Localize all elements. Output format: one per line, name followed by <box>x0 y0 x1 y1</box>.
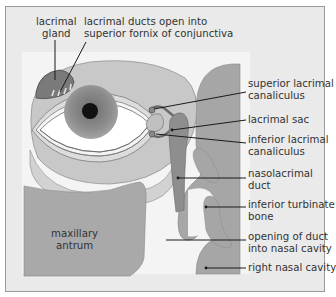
label-lacrimal-gland: lacrimal gland <box>36 16 77 40</box>
label-nasal-cavity: right nasal cavity <box>248 262 336 274</box>
pupil <box>82 103 98 119</box>
label-inferior-turbinate: inferior turbinate bone <box>248 199 335 223</box>
label-duct-opening: opening of duct into nasal cavity <box>248 231 332 255</box>
label-inferior-canaliculus: inferior lacrimal canaliculus <box>248 134 329 158</box>
label-nasolacrimal-duct: nasolacrimal duct <box>248 168 313 192</box>
label-lacrimal-ducts: lacrimal ducts open into superior fornix… <box>84 16 233 40</box>
label-lacrimal-sac: lacrimal sac <box>248 114 309 126</box>
label-superior-canaliculus: superior lacrimal canaliculus <box>248 78 334 102</box>
label-maxillary-antrum: maxillary antrum <box>51 228 98 252</box>
